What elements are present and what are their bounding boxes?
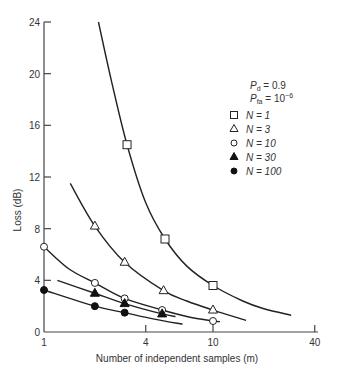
x-tick-label: 10 <box>207 337 219 348</box>
square-marker-icon <box>123 141 131 149</box>
y-axis-label: Loss (dB) <box>12 189 23 232</box>
legend-item: N = 10 <box>231 138 276 149</box>
chart: 04812162024 141040 Loss (dB) Number of i… <box>0 0 339 372</box>
legend-label: N = 1 <box>246 110 270 121</box>
y-tick-label: 4 <box>34 275 40 286</box>
curve-line <box>70 183 246 320</box>
pfa-value: = 10 <box>263 93 286 104</box>
series-n3 <box>70 183 246 320</box>
legend-label: N = 30 <box>246 152 276 163</box>
legend-item: N = 1 <box>231 110 271 121</box>
filled-circle-marker-icon <box>121 309 128 316</box>
legend-label: N = 10 <box>246 138 276 149</box>
svg-text:Pfa = 10−6: Pfa = 10−6 <box>250 92 293 105</box>
filled-circle-marker-icon <box>91 303 98 310</box>
x-axis-label: Number of independent samples (m) <box>96 353 258 364</box>
pfa-exponent: −6 <box>285 92 293 99</box>
legend-item: N = 3 <box>230 124 271 135</box>
legend-item: N = 30 <box>230 152 276 163</box>
triangle-marker-icon <box>159 286 168 294</box>
legend-label: N = 100 <box>246 166 282 177</box>
x-tick-label: 4 <box>143 337 149 348</box>
x-tick-label: 1 <box>41 337 47 348</box>
x-axis: 141040 <box>41 325 321 348</box>
legend-label: N = 3 <box>246 124 271 135</box>
filled-circle-marker-icon <box>231 168 237 174</box>
y-tick-label: 20 <box>29 69 41 80</box>
square-marker-icon <box>161 235 169 243</box>
y-tick-label: 8 <box>34 224 40 235</box>
legend: N = 1N = 3N = 10N = 30N = 100 <box>230 110 282 177</box>
circle-marker-icon <box>231 140 237 146</box>
y-tick-label: 12 <box>29 172 41 183</box>
parameter-annotation: Pd = 0.9 Pfa = 10−6 <box>250 80 293 105</box>
triangle-marker-icon <box>230 125 238 132</box>
y-tick-label: 16 <box>29 120 41 131</box>
circle-marker-icon <box>41 243 48 250</box>
svg-text:Pd = 0.9: Pd = 0.9 <box>250 80 286 92</box>
legend-item: N = 100 <box>231 166 282 177</box>
square-marker-icon <box>231 112 238 119</box>
filled-circle-marker-icon <box>41 287 48 294</box>
circle-marker-icon <box>91 279 98 286</box>
y-tick-label: 24 <box>29 17 41 28</box>
filled-triangle-marker-icon <box>230 153 238 160</box>
x-tick-label: 40 <box>309 337 321 348</box>
pd-value: = 0.9 <box>261 80 287 91</box>
square-marker-icon <box>209 282 217 290</box>
y-tick-label: 0 <box>34 327 40 338</box>
circle-marker-icon <box>210 318 217 325</box>
